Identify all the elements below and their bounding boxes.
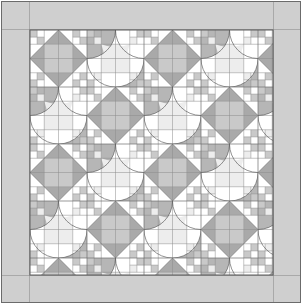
quilt-canvas [0,0,303,305]
quilt-diagram [0,0,303,305]
quilt-field [30,30,273,275]
